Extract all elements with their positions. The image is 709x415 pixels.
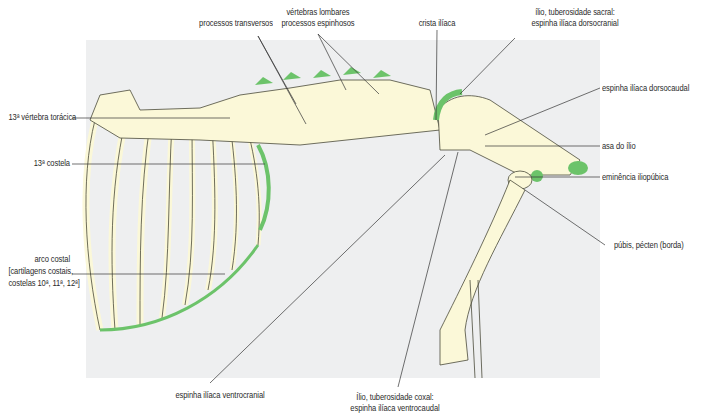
pelvis xyxy=(436,92,588,189)
label-cartilagens-costais: [cartilagens costais, xyxy=(8,266,70,277)
label-espinha-dorsocaudal: espinha ilíaca dorsocaudal xyxy=(602,83,689,94)
label-espinha-ventrocranial: espinha ilíaca ventrocranial xyxy=(167,390,273,401)
label-crista-iliaca: crista ilíaca xyxy=(406,18,468,29)
ribcage xyxy=(86,120,259,330)
label-vertebras-lombares: vértebras lombares xyxy=(274,7,362,18)
label-processos-transversos: processos transversos xyxy=(192,18,280,29)
label-ilio-tuberosidade-coxal: Ílio, tuberosidade coxal: xyxy=(338,392,452,403)
label-costelas-10-11-12: costelas 10ª, 11ª, 12ª] xyxy=(8,278,70,289)
label-arco-costal: arco costal xyxy=(8,254,70,265)
vertebral-column xyxy=(90,67,440,145)
label-pubis-pecten: púbis, pécten (borda) xyxy=(614,240,684,251)
label-processos-espinhosos: processos espinhosos xyxy=(274,18,362,29)
label-ilio-tuberosidade-sacral: ílio, tuberosidade sacral: xyxy=(518,7,632,18)
label-13-costela: 13ª costela xyxy=(8,158,70,169)
label-espinha-ventrocaudal: espinha ilíaca ventrocaudal xyxy=(338,403,452,414)
skeleton-illustration xyxy=(0,0,709,415)
femur xyxy=(440,180,525,365)
label-asa-do-ilio: asa do ílio xyxy=(602,141,636,152)
label-espinha-dorsocranial: espinha ilíaca dorsocranial xyxy=(518,18,632,29)
label-eminencia-iliopubica: eminência iliopúbica xyxy=(602,172,668,183)
label-13-vertebra-toracica: 13ª vértebra torácica xyxy=(8,112,70,123)
